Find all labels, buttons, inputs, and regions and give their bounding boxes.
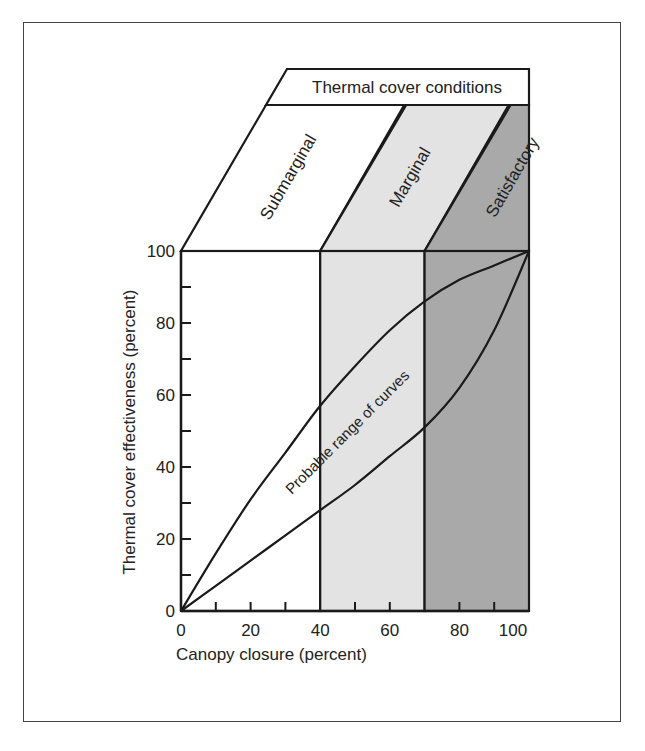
y-axis-label: Thermal cover effectiveness (percent) <box>120 289 139 574</box>
zone-band-submarginal <box>181 251 320 611</box>
zone-band-satisfactory <box>425 251 529 611</box>
chart-title: Thermal cover conditions <box>312 78 502 97</box>
x-axis-label: Canopy closure (percent) <box>176 645 367 664</box>
x-tick-label: 40 <box>311 621 330 640</box>
y-tick-label: 80 <box>156 314 175 333</box>
y-tick-label: 0 <box>166 602 175 621</box>
x-tick-label: 80 <box>450 621 469 640</box>
y-tick-label: 20 <box>156 530 175 549</box>
y-tick-label: 60 <box>156 386 175 405</box>
y-tick-label: 100 <box>147 242 175 261</box>
y-tick-label: 40 <box>156 458 175 477</box>
x-tick-label: 0 <box>176 621 185 640</box>
x-tick-label: 60 <box>380 621 399 640</box>
x-tick-label: 20 <box>241 621 260 640</box>
chart: SubmarginalMarginalSatisfactory 02040608… <box>0 0 645 751</box>
x-tick-label: 100 <box>499 621 527 640</box>
